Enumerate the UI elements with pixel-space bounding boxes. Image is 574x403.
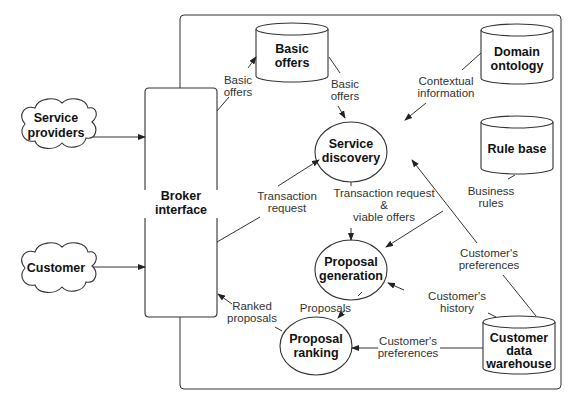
service-discovery-process[interactable]: Service discovery bbox=[315, 122, 387, 182]
broker-architecture-diagram: Broker interface Service providers Custo… bbox=[0, 0, 574, 403]
flow-label-proposals: Proposals bbox=[300, 302, 351, 314]
rule-base-store[interactable]: Rule base bbox=[481, 116, 553, 174]
domain-ontology-label-2: ontology bbox=[491, 59, 544, 73]
flow-label-ranked-a: Ranked bbox=[232, 300, 272, 312]
flow-ontology-to-discovery bbox=[462, 53, 481, 70]
flow-label-txn-viable-b: & bbox=[380, 199, 388, 211]
flow-label-txn-viable-a: Transaction request bbox=[333, 187, 435, 199]
proposal-ranking-label-2: ranking bbox=[293, 346, 338, 360]
flow-label-txn-viable-c: viable offers bbox=[353, 211, 415, 223]
customer-data-warehouse-label-2: data bbox=[506, 344, 533, 358]
flow-label-basic-offers-2b: offers bbox=[331, 90, 360, 102]
basic-offers-label-1: Basic bbox=[275, 42, 308, 56]
flow-warehouse-to-discovery bbox=[503, 275, 536, 316]
flow-label-contextual-b: information bbox=[418, 87, 475, 99]
proposal-generation-label-2: generation bbox=[319, 269, 383, 283]
flow-label-basic-offers-1b: offers bbox=[224, 86, 253, 98]
customer-label: Customer bbox=[27, 261, 85, 275]
flow-ontology-to-discovery-arrow bbox=[405, 103, 426, 120]
service-providers-label-1: Service bbox=[34, 111, 79, 125]
proposal-generation-label-1: Proposal bbox=[324, 255, 378, 269]
proposal-generation-process[interactable]: Proposal generation bbox=[315, 240, 387, 300]
flow-broker-to-basic-offers bbox=[217, 97, 229, 111]
flow-ranking-to-broker bbox=[275, 327, 282, 331]
flow-warehouse-to-generation bbox=[488, 313, 496, 317]
customer-data-warehouse-label-3: warehouse bbox=[485, 357, 551, 371]
flow-label-history-b: history bbox=[440, 302, 474, 314]
flow-broker-to-discovery bbox=[217, 217, 260, 242]
flow-basic-offers-to-discovery-arrow bbox=[338, 106, 345, 118]
flow-label-contextual-a: Contextual bbox=[419, 75, 474, 87]
basic-offers-label-2: offers bbox=[275, 56, 310, 70]
domain-ontology-store[interactable]: Domain ontology bbox=[481, 24, 553, 84]
flow-label-preferences-1a: Customer's bbox=[460, 247, 518, 259]
flow-label-basic-offers-2a: Basic bbox=[331, 78, 359, 90]
proposal-ranking-process[interactable]: Proposal ranking bbox=[280, 317, 352, 375]
flow-label-preferences-2b: preferences bbox=[378, 347, 439, 359]
customer-cloud[interactable]: Customer bbox=[22, 243, 96, 293]
service-providers-cloud[interactable]: Service providers bbox=[22, 99, 96, 149]
flow-ranking-to-broker-arrow bbox=[218, 294, 232, 304]
broker-interface-label-1: Broker bbox=[161, 189, 201, 203]
broker-interface-label-2: interface bbox=[155, 203, 207, 217]
flow-label-history-a: Customer's bbox=[428, 290, 486, 302]
rule-base-label: Rule base bbox=[487, 142, 546, 156]
flow-warehouse-to-discovery-arrow bbox=[412, 160, 477, 243]
flow-label-transaction-b: request bbox=[268, 202, 307, 214]
service-discovery-label-1: Service bbox=[329, 137, 374, 151]
flow-label-transaction-a: Transaction bbox=[257, 190, 317, 202]
flow-label-ranked-b: proposals bbox=[227, 312, 277, 324]
flow-label-preferences-1b: preferences bbox=[459, 259, 520, 271]
customer-data-warehouse-store[interactable]: Customer data warehouse bbox=[483, 316, 555, 374]
service-providers-label-2: providers bbox=[28, 126, 85, 140]
flow-label-business-rules-a: Business bbox=[468, 185, 515, 197]
proposal-ranking-label-1: Proposal bbox=[289, 332, 343, 346]
flow-basic-offers-to-discovery bbox=[329, 57, 340, 73]
flow-warehouse-to-generation-arrow bbox=[388, 283, 404, 290]
flow-label-basic-offers-1a: Basic bbox=[224, 74, 252, 86]
flow-label-preferences-2a: Customer's bbox=[379, 335, 437, 347]
flow-broker-to-basic-offers-arrow bbox=[248, 57, 256, 68]
basic-offers-store[interactable]: Basic offers bbox=[256, 23, 328, 82]
flow-broker-to-discovery-arrow bbox=[278, 160, 319, 186]
customer-data-warehouse-label-1: Customer bbox=[490, 331, 548, 345]
broker-interface[interactable]: Broker interface bbox=[145, 88, 217, 317]
flow-rulebase-to-generation bbox=[508, 175, 515, 179]
domain-ontology-label-1: Domain bbox=[494, 45, 540, 59]
service-discovery-label-2: discovery bbox=[322, 151, 380, 165]
flow-label-business-rules-b: rules bbox=[479, 197, 504, 209]
